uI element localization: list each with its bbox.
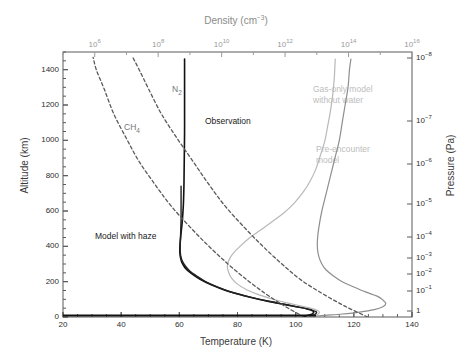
series-pre-encounter-model (313, 59, 386, 316)
series-model-with-haze (180, 186, 316, 316)
figure-panel: Density (cm−3) Temperature (K) Altitude … (0, 0, 472, 355)
plot-frame (63, 52, 412, 317)
plot-area (0, 0, 472, 355)
series-layer (63, 57, 386, 317)
